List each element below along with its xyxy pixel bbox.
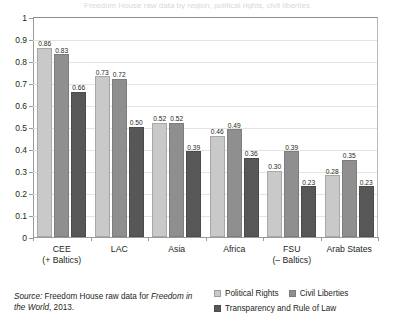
bar[interactable]: 0.50 xyxy=(129,127,144,237)
bar[interactable]: 0.72 xyxy=(112,79,127,237)
x-axis-tick xyxy=(321,237,322,241)
y-axis-tick-label: 0.4 xyxy=(15,146,27,155)
bar-group: 0.730.720.50 xyxy=(91,18,149,237)
y-axis-tick-label: 0.8 xyxy=(15,58,27,67)
x-axis-label-line1: FSU xyxy=(263,244,321,255)
bar-value-label: 0.52 xyxy=(170,116,183,123)
x-axis-tick xyxy=(91,237,92,241)
x-axis-tick xyxy=(263,237,264,241)
legend-row: Political RightsCivil Liberties xyxy=(214,289,389,298)
x-axis-label-line1: Asia xyxy=(148,244,206,255)
bar-value-label: 0.23 xyxy=(302,180,315,187)
bar-group: 0.460.490.36 xyxy=(206,18,264,237)
x-axis-label-line1: Africa xyxy=(206,244,264,255)
x-axis-tick xyxy=(148,237,149,241)
y-axis-tick-label: 0 xyxy=(22,234,27,243)
bar[interactable]: 0.23 xyxy=(301,186,316,237)
y-axis-tick-label: 0.2 xyxy=(15,190,27,199)
y-axis-tick-label: 1 xyxy=(22,14,27,23)
legend-item[interactable]: Political Rights xyxy=(214,289,279,298)
bar-group: 0.300.390.23 xyxy=(263,18,321,237)
bar-group: 0.280.350.23 xyxy=(321,18,379,237)
legend-row: Transparency and Rule of Law xyxy=(214,304,389,313)
legend-item[interactable]: Transparency and Rule of Law xyxy=(214,304,336,313)
bar[interactable]: 0.35 xyxy=(342,160,357,237)
bar[interactable]: 0.36 xyxy=(244,158,259,237)
x-axis-category-label: LAC xyxy=(91,244,149,255)
bar[interactable]: 0.23 xyxy=(359,186,374,237)
bar-value-label: 0.39 xyxy=(187,145,200,152)
chart-legend: Political RightsCivil LibertiesTranspare… xyxy=(214,289,389,319)
source-label: Source: xyxy=(14,292,42,301)
x-axis-tick xyxy=(378,237,379,241)
legend-color-swatch xyxy=(214,290,221,297)
x-axis-tick xyxy=(33,237,34,241)
x-axis-category-label: Asia xyxy=(148,244,206,255)
x-axis-category-label: CEE(+ Baltics) xyxy=(33,244,91,266)
bar[interactable]: 0.52 xyxy=(169,123,184,237)
source-text-1: Freedom House raw data for xyxy=(42,292,151,301)
plot-area: 00.10.20.30.40.50.60.70.80.91 0.860.830.… xyxy=(33,17,378,237)
legend-color-swatch xyxy=(214,305,221,312)
bar-value-label: 0.52 xyxy=(153,116,166,123)
bar-value-label: 0.49 xyxy=(228,123,241,130)
bar-value-label: 0.35 xyxy=(343,153,356,160)
x-axis-tick xyxy=(206,237,207,241)
x-axis-label-line1: LAC xyxy=(91,244,149,255)
y-axis-tick-label: 0.7 xyxy=(15,80,27,89)
chart-figure: Freedom House raw data by region, politi… xyxy=(0,0,394,331)
y-axis-tick-label: 0.1 xyxy=(15,212,27,221)
y-axis-tick-label: 0.6 xyxy=(15,102,27,111)
bar-value-label: 0.46 xyxy=(211,129,224,136)
y-axis-tick-label: 0.9 xyxy=(15,36,27,45)
bar-value-label: 0.23 xyxy=(360,180,373,187)
bar[interactable]: 0.30 xyxy=(267,171,282,237)
bar-value-label: 0.73 xyxy=(96,70,109,77)
bar-value-label: 0.83 xyxy=(55,48,68,55)
bar-value-label: 0.30 xyxy=(268,164,281,171)
y-axis-tick-label: 0.5 xyxy=(15,124,27,133)
y-axis-tick-label: 0.3 xyxy=(15,168,27,177)
clipped-title: Freedom House raw data by region, politi… xyxy=(0,0,394,9)
bar[interactable]: 0.49 xyxy=(227,129,242,237)
bar-group: 0.860.830.66 xyxy=(33,18,91,237)
bar[interactable]: 0.66 xyxy=(71,92,86,237)
bar[interactable]: 0.83 xyxy=(54,54,69,237)
legend-color-swatch xyxy=(289,290,296,297)
x-axis-category-label: FSU(– Baltics) xyxy=(263,244,321,266)
bar-value-label: 0.39 xyxy=(285,145,298,152)
x-axis-label-line2: (+ Baltics) xyxy=(33,255,91,266)
bar[interactable]: 0.86 xyxy=(37,48,52,237)
source-note: Source: Freedom House raw data for Freed… xyxy=(14,291,199,313)
x-axis-label-line1: Arab States xyxy=(321,244,379,255)
bar-group: 0.520.520.39 xyxy=(148,18,206,237)
bar-value-label: 0.28 xyxy=(326,169,339,176)
bar-value-label: 0.86 xyxy=(38,41,51,48)
bar[interactable]: 0.52 xyxy=(152,123,167,237)
bar[interactable]: 0.28 xyxy=(325,175,340,237)
bar-value-label: 0.50 xyxy=(130,120,143,127)
bar[interactable]: 0.39 xyxy=(284,151,299,237)
bar-groups: 0.860.830.660.730.720.500.520.520.390.46… xyxy=(33,18,377,237)
bar-value-label: 0.36 xyxy=(245,151,258,158)
source-text-2: , 2013. xyxy=(49,303,74,312)
bar[interactable]: 0.73 xyxy=(95,76,110,237)
legend-label: Civil Liberties xyxy=(300,289,349,298)
legend-item[interactable]: Civil Liberties xyxy=(289,289,349,298)
x-axis-category-label: Arab States xyxy=(321,244,379,255)
x-axis-label-line2: (– Baltics) xyxy=(263,255,321,266)
legend-label: Transparency and Rule of Law xyxy=(225,304,336,313)
x-axis-label-line1: CEE xyxy=(33,244,91,255)
bar-value-label: 0.66 xyxy=(72,85,85,92)
legend-label: Political Rights xyxy=(225,289,279,298)
x-axis-category-label: Africa xyxy=(206,244,264,255)
bar[interactable]: 0.39 xyxy=(186,151,201,237)
bar[interactable]: 0.46 xyxy=(210,136,225,237)
bar-value-label: 0.72 xyxy=(113,72,126,79)
